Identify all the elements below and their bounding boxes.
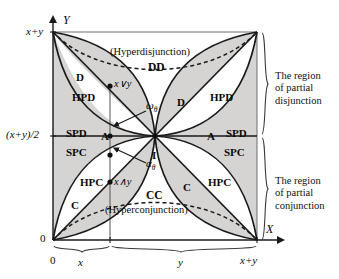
point-join [107, 83, 112, 88]
x-end-tick-label: x+y [240, 255, 257, 266]
zone-label-C-right: C [183, 182, 191, 193]
omega-theta-label: ωθ [146, 100, 157, 114]
zone-label-A-left: A [101, 131, 109, 142]
y-axis-label: Y [63, 14, 70, 26]
brace-label-y: y [178, 257, 183, 268]
zone-label-D-right: D [177, 97, 185, 108]
hyperdisjunction-caption: (Hyperdisjunction) [110, 47, 190, 58]
join-point-label: x∨y [114, 79, 131, 90]
hyperconjunction-code: CC [146, 190, 163, 202]
figure-canvas: Y X x+y (x+y)/2 0 0 x+y x y (Hyperdisjun… [0, 0, 339, 279]
brace-y-segment [112, 246, 256, 252]
diagram-svg [0, 0, 339, 279]
point-center-I [153, 134, 158, 139]
omega-subscript: θ [154, 105, 158, 114]
zone-label-HPD-right: HPD [210, 92, 233, 103]
origin-label: 0 [40, 233, 46, 244]
hyperdisjunction-code: DD [148, 62, 165, 74]
bottom-braces [54, 246, 256, 252]
zone-label-A-right: A [207, 131, 215, 142]
zone-label-SPC-left: SPC [66, 147, 87, 158]
hyperconjunction-caption: (Hyperconjunction) [105, 205, 188, 216]
y-top-tick-label: x+y [26, 26, 43, 37]
zone-label-C-left: C [71, 200, 79, 211]
zone-label-SPC-right: SPC [224, 147, 245, 158]
meet-point-label: x∧y [114, 177, 131, 188]
zone-label-SPD-left: SPD [66, 128, 87, 139]
zone-label-HPC-right: HPC [208, 177, 231, 188]
y-mid-tick-label: (x+y)/2 [6, 129, 39, 140]
brace-disjunction [262, 33, 268, 134]
right-braces [262, 33, 268, 240]
x-axis-label: X [266, 223, 273, 235]
origin-x-label: 0 [50, 255, 56, 266]
point-meet [107, 179, 112, 184]
region-note-conjunction: The region of partial conjunction [275, 175, 337, 212]
zone-label-D-left: D [76, 72, 84, 83]
brace-x-segment [54, 246, 109, 252]
zone-label-HPC-left: HPC [80, 177, 103, 188]
zone-label-HPD-left: HPD [72, 92, 95, 103]
brace-label-x: x [78, 257, 83, 268]
omega-symbol: ω [146, 99, 154, 111]
point-alpha [107, 152, 112, 157]
alpha-subscript: θ [152, 163, 156, 172]
region-note-disjunction: The region of partial disjunction [275, 70, 337, 107]
zone-label-I-center: I [152, 150, 156, 161]
zone-label-SPD-right: SPD [226, 128, 247, 139]
